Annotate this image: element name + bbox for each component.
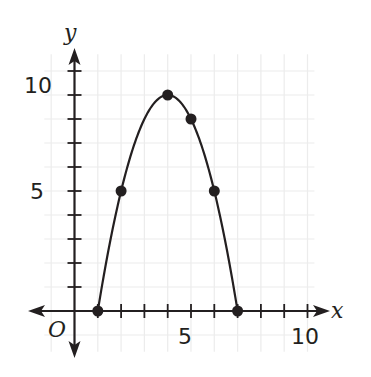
y-axis-label: y xyxy=(63,20,77,45)
data-point xyxy=(116,186,127,197)
x-tick-label-5: 5 xyxy=(178,324,192,349)
axis-labels: y x O 5 10 5 10 xyxy=(24,20,344,349)
y-tick-label-5: 5 xyxy=(30,179,44,204)
data-point xyxy=(186,114,197,125)
data-point xyxy=(209,186,220,197)
x-axis-label: x xyxy=(331,298,344,323)
coordinate-plane: y x O 5 10 5 10 xyxy=(0,0,371,377)
y-tick-label-10: 10 xyxy=(24,73,52,98)
x-tick-label-10: 10 xyxy=(291,324,319,349)
data-point xyxy=(92,306,103,317)
grid-lines xyxy=(44,54,314,352)
data-point xyxy=(162,90,173,101)
data-point xyxy=(232,306,243,317)
origin-label: O xyxy=(48,317,66,342)
